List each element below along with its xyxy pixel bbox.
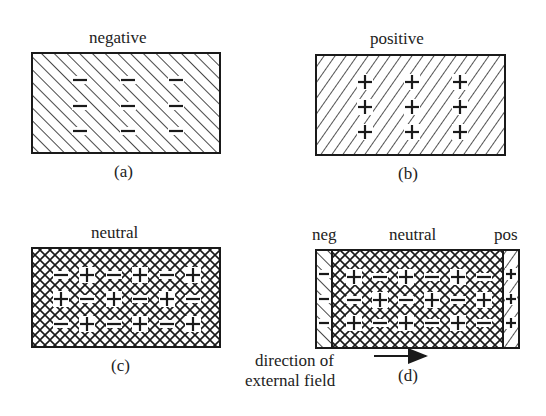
- panel-c-caption: (c): [111, 357, 130, 374]
- panel-b-title: positive: [370, 30, 424, 47]
- panel-d-neutral-label: neutral: [389, 226, 436, 243]
- panel-a-caption: (a): [114, 163, 133, 180]
- panel-a-title: negative: [89, 29, 147, 46]
- field-direction-label-line1: direction of: [255, 352, 334, 369]
- panel-c-title: neutral: [91, 224, 138, 241]
- field-direction-label-line2: external field: [245, 372, 335, 389]
- panel-b-caption: (b): [398, 165, 418, 182]
- panel-b-positive: [316, 55, 505, 155]
- panel-d-neg-label: neg: [312, 226, 337, 243]
- panel-d-caption: (d): [398, 367, 418, 384]
- panel-d-pos-label: pos: [494, 226, 518, 243]
- panel-d-polarized: [316, 250, 519, 356]
- panel-c-neutral: [32, 248, 220, 347]
- panel-a-negative: [32, 53, 220, 153]
